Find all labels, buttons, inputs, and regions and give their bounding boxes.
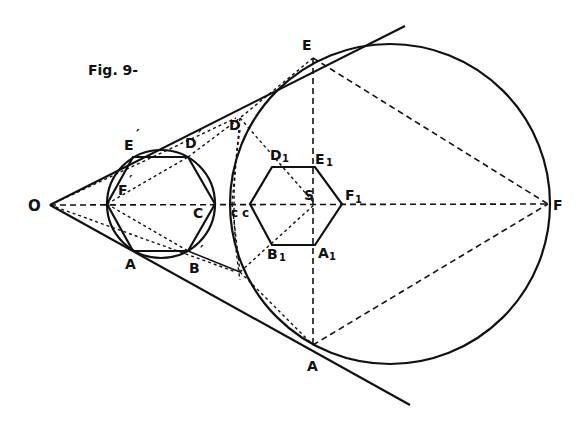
upper-tangent-line — [50, 26, 405, 205]
label-B-prime: B — [189, 260, 200, 276]
label-F1: F — [345, 187, 355, 203]
label-A-prime: A — [125, 256, 136, 272]
inner-hexagon — [250, 167, 342, 245]
label-S: S — [304, 187, 314, 203]
prime-mark-D: ′ — [198, 127, 202, 143]
label-E1-sub: 1 — [326, 157, 333, 168]
label-D: D — [229, 117, 241, 133]
line-A-F — [313, 204, 548, 345]
label-A: A — [307, 358, 318, 374]
label-C-prime: C — [193, 205, 203, 221]
label-D1: D — [270, 147, 282, 163]
lower-tangent-line — [50, 205, 410, 405]
label-c1: c — [242, 206, 249, 220]
geometry-diagram: Fig. 9- O E ′ D ′ F ′ C A B ′ c c D — [0, 0, 581, 429]
line-E-F — [313, 58, 548, 204]
label-D1-sub: 1 — [282, 153, 289, 164]
label-E: E — [302, 37, 312, 53]
prime-mark-B: ′ — [200, 242, 204, 258]
figure-title: Fig. 9- — [88, 62, 138, 78]
label-O: O — [28, 197, 41, 215]
label-B1: B — [267, 246, 278, 262]
label-E-prime: E — [124, 137, 134, 153]
line-E-D — [240, 58, 313, 118]
label-A1-sub: 1 — [329, 251, 336, 262]
label-F1-sub: 1 — [355, 194, 362, 205]
label-F: F — [553, 197, 563, 213]
label-A1: A — [318, 245, 329, 261]
prime-mark-E: ′ — [136, 126, 140, 142]
label-c: c — [231, 206, 238, 220]
prime-mark-F: ′ — [129, 172, 133, 188]
label-F-prime: F — [118, 182, 128, 198]
label-D-prime: D — [185, 135, 197, 151]
label-B1-sub: 1 — [279, 252, 286, 263]
label-E1: E — [315, 151, 325, 167]
axis-line-OF — [50, 204, 548, 205]
